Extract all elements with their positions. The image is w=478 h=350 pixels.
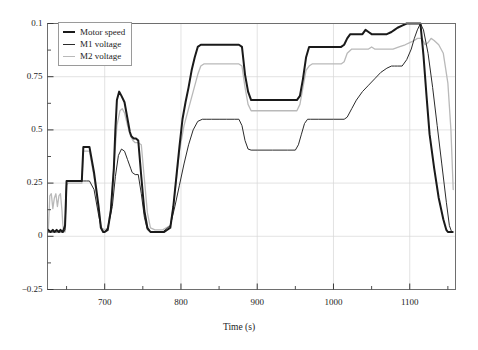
x-axis-tick-label: 800 [161,297,201,307]
y-axis-tick-label: 0 [0,230,43,240]
legend-label: M2 voltage [80,50,121,62]
x-axis-tick-label: 1000 [313,297,353,307]
y-axis-tick-label: −0.25 [0,284,43,294]
y-axis-tick-label: 0.75 [0,71,43,81]
chart-legend: Motor speed M1 voltage M2 voltage [58,22,132,66]
legend-swatch-m2-voltage [63,56,75,57]
x-axis-tick-label: 700 [85,297,125,307]
x-axis-tick-label: 900 [237,297,277,307]
x-axis-tick-label: 1100 [390,297,430,307]
legend-swatch-m1-voltage [63,44,75,45]
legend-item: Motor speed [63,26,125,38]
figure-container: Motor speed M1 voltage M2 voltage Time (… [0,0,478,350]
y-axis-tick-label: 0.1 [0,18,43,28]
legend-label: M1 voltage [80,38,121,50]
y-axis-tick-label: 0.25 [0,177,43,187]
x-axis-title: Time (s) [0,322,478,332]
legend-label: Motor speed [80,26,125,38]
legend-item: M1 voltage [63,38,125,50]
y-axis-tick-label: 0.5 [0,124,43,134]
legend-item: M2 voltage [63,50,125,62]
legend-swatch-motor-speed [63,31,75,33]
